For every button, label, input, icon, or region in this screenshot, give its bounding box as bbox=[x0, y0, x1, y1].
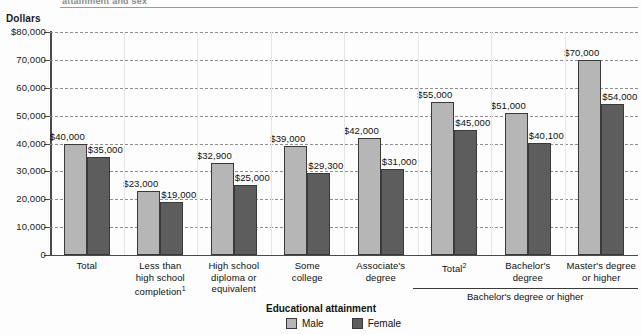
y-tick-label: 20,000 bbox=[0, 193, 46, 204]
x-category-line: or higher bbox=[559, 272, 642, 284]
legend-label-male: Male bbox=[302, 318, 324, 329]
group-separator bbox=[271, 32, 272, 255]
legend-title: Educational attainment bbox=[221, 303, 421, 314]
bar-group bbox=[137, 32, 183, 255]
bar-group bbox=[578, 32, 624, 255]
bar-female[interactable] bbox=[160, 202, 183, 255]
group-separator bbox=[124, 32, 125, 255]
bar-female[interactable] bbox=[307, 173, 330, 255]
cut-off-title: attainment and sex bbox=[62, 0, 362, 5]
bars-area: $40,000$35,000$23,000$19,000$32,900$25,0… bbox=[50, 32, 638, 255]
value-label-female: $35,000 bbox=[88, 144, 123, 155]
bar-male[interactable] bbox=[358, 138, 381, 255]
footnote-marker: 2 bbox=[463, 262, 467, 269]
value-label-male: $70,000 bbox=[564, 47, 599, 58]
footnote-marker: 1 bbox=[182, 285, 186, 292]
legend-swatch-male-icon bbox=[286, 318, 297, 329]
x-category-line: Master's degree bbox=[559, 260, 642, 272]
y-axis-title: Dollars bbox=[6, 13, 41, 24]
group-separator bbox=[565, 32, 566, 255]
legend-item-female[interactable]: Female bbox=[352, 318, 401, 329]
value-label-male: $40,000 bbox=[50, 131, 85, 142]
legend-item-male[interactable]: Male bbox=[286, 318, 324, 329]
group-separator bbox=[197, 32, 198, 255]
value-label-male: $55,000 bbox=[417, 89, 452, 100]
value-label-male: $39,000 bbox=[270, 133, 305, 144]
value-label-female: $45,000 bbox=[455, 117, 490, 128]
bar-male[interactable] bbox=[578, 60, 601, 255]
value-label-female: $40,100 bbox=[529, 130, 564, 141]
group-separator bbox=[491, 32, 492, 255]
value-label-male: $42,000 bbox=[344, 125, 379, 136]
bar-group bbox=[211, 32, 257, 255]
bar-group bbox=[505, 32, 551, 255]
x-category-line: equivalent bbox=[191, 283, 277, 295]
bar-male[interactable] bbox=[64, 144, 87, 256]
bar-female[interactable] bbox=[454, 130, 477, 255]
x-category-label: Master's degreeor higher bbox=[559, 260, 642, 283]
value-label-male: $51,000 bbox=[491, 100, 526, 111]
x-axis-line bbox=[50, 255, 638, 256]
y-tick-label: 30,000 bbox=[0, 165, 46, 176]
legend-swatch-female-icon bbox=[352, 318, 363, 329]
top-divider bbox=[60, 7, 638, 8]
y-tick-label: 0 bbox=[0, 249, 46, 260]
bar-male[interactable] bbox=[137, 191, 160, 255]
value-label-female: $54,000 bbox=[602, 91, 637, 102]
bar-male[interactable] bbox=[284, 146, 307, 255]
bracket-line bbox=[413, 288, 639, 289]
bar-female[interactable] bbox=[87, 157, 110, 255]
value-label-male: $23,000 bbox=[123, 178, 158, 189]
y-tick-label: 60,000 bbox=[0, 82, 46, 93]
bar-male[interactable] bbox=[505, 113, 528, 255]
bar-female[interactable] bbox=[528, 143, 551, 255]
legend-label-female: Female bbox=[368, 318, 401, 329]
y-tick-label: 40,000 bbox=[0, 138, 46, 149]
value-label-male: $32,900 bbox=[197, 150, 232, 161]
value-label-female: $29,300 bbox=[308, 160, 343, 171]
y-tick-label: $80,000 bbox=[0, 26, 46, 37]
value-label-female: $25,000 bbox=[235, 172, 270, 183]
value-label-female: $31,000 bbox=[382, 156, 417, 167]
value-label-female: $19,000 bbox=[161, 189, 196, 200]
bar-male[interactable] bbox=[211, 163, 234, 255]
group-separator bbox=[344, 32, 345, 255]
y-tick-label: 10,000 bbox=[0, 221, 46, 232]
y-tick-label: 70,000 bbox=[0, 54, 46, 65]
bar-female[interactable] bbox=[234, 185, 257, 255]
group-separator bbox=[418, 32, 419, 255]
bar-male[interactable] bbox=[431, 102, 454, 255]
bar-female[interactable] bbox=[381, 169, 404, 255]
y-tick-label: 50,000 bbox=[0, 110, 46, 121]
bracket-label: Bachelor's degree or higher bbox=[413, 291, 639, 302]
bar-group bbox=[431, 32, 477, 255]
bar-female[interactable] bbox=[601, 104, 624, 255]
chart-root: attainment and sex Dollars $80,00070,000… bbox=[0, 0, 642, 335]
bar-group bbox=[358, 32, 404, 255]
legend: Male Female bbox=[286, 318, 401, 329]
